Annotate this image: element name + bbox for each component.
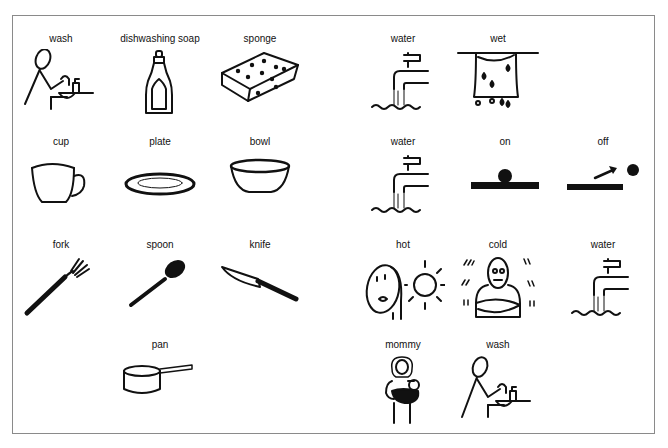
symbol-card-water[interactable]: water: [553, 239, 653, 329]
washing-dishes-icon: [458, 355, 538, 425]
symbol-label: off: [553, 136, 653, 148]
symbol-card-mommy[interactable]: mommy: [353, 339, 453, 429]
symbol-card-on[interactable]: on: [455, 136, 555, 226]
symbol-card-dishwashing-soap[interactable]: dishwashing soap: [110, 33, 210, 123]
symbol-label: sponge: [210, 33, 310, 45]
symbol-card-water[interactable]: water: [353, 33, 453, 123]
symbol-label: mommy: [353, 339, 453, 351]
symbol-card-water[interactable]: water: [353, 136, 453, 226]
washing-dishes-icon: [21, 49, 101, 113]
symbol-label: cold: [448, 239, 548, 251]
symbol-card-sponge[interactable]: sponge: [210, 33, 310, 123]
symbol-card-spoon[interactable]: spoon: [110, 239, 210, 329]
symbol-label: wet: [448, 33, 548, 45]
faucet-icon: [368, 49, 438, 113]
symbol-card-wash[interactable]: wash: [448, 339, 548, 429]
wet-cloth-icon: [456, 49, 540, 113]
symbol-card-pan[interactable]: pan: [110, 339, 210, 429]
knife-icon: [218, 255, 302, 315]
symbol-label: cup: [11, 136, 111, 148]
symbol-card-fork[interactable]: fork: [11, 239, 111, 329]
symbol-label: bowl: [210, 136, 310, 148]
symbol-card-hot[interactable]: hot: [353, 239, 453, 329]
bowl-icon: [225, 152, 295, 212]
cold-shivering-person-icon: [456, 255, 540, 321]
symbol-card-wash[interactable]: wash: [11, 33, 111, 123]
hot-person-sun-icon: [361, 255, 445, 321]
symbol-card-plate[interactable]: plate: [110, 136, 210, 226]
symbol-label: wash: [448, 339, 548, 351]
symbol-label: hot: [353, 239, 453, 251]
symbol-card-off[interactable]: off: [553, 136, 653, 226]
soap-bottle-icon: [140, 49, 180, 117]
sponge-icon: [218, 49, 302, 109]
symbol-label: water: [353, 136, 453, 148]
symbol-label: spoon: [110, 239, 210, 251]
mother-holding-baby-icon: [378, 355, 428, 425]
symbol-label: plate: [110, 136, 210, 148]
plate-icon: [123, 152, 197, 212]
symbol-card-bowl[interactable]: bowl: [210, 136, 310, 226]
cup-icon: [26, 152, 96, 212]
symbol-label: knife: [210, 239, 310, 251]
symbol-label: wash: [11, 33, 111, 45]
symbol-label: dishwashing soap: [110, 33, 210, 45]
pan-icon: [120, 355, 200, 405]
fork-icon: [21, 255, 101, 319]
symbol-card-wet[interactable]: wet: [448, 33, 548, 123]
symbol-label: pan: [110, 339, 210, 351]
symbol-label: water: [553, 239, 653, 251]
symbol-label: water: [353, 33, 453, 45]
switch-on-icon: [465, 152, 545, 212]
symbol-card-knife[interactable]: knife: [210, 239, 310, 329]
faucet-icon: [568, 255, 638, 319]
switch-off-icon: [561, 152, 645, 212]
symbol-label: fork: [11, 239, 111, 251]
faucet-icon: [368, 152, 438, 216]
picture-communication-board: wash dishwashing soap sponge: [12, 15, 655, 434]
symbol-card-cold[interactable]: cold: [448, 239, 548, 329]
symbol-label: on: [455, 136, 555, 148]
spoon-icon: [125, 255, 195, 315]
symbol-card-cup[interactable]: cup: [11, 136, 111, 226]
